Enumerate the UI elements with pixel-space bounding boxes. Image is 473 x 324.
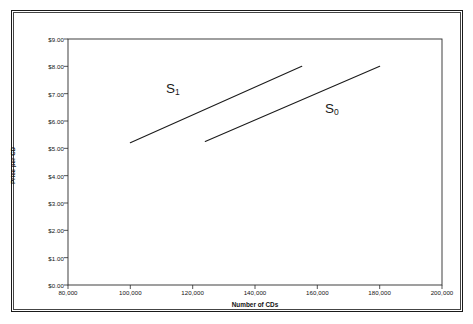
x-tick-label: 160,000: [306, 289, 329, 296]
y-tick-label: $4.00: [48, 172, 64, 179]
y-tick-label: $1.00: [48, 254, 64, 261]
y-tick-label: $5.00: [48, 145, 64, 152]
plot-box: [68, 39, 442, 285]
y-axis-title: Price per CD: [9, 131, 16, 201]
y-axis-ticks: [64, 39, 68, 285]
y-tick-label: $2.00: [48, 227, 64, 234]
curve-label-s1-sub: 1: [175, 87, 180, 97]
curve-label-s0-main: S: [325, 101, 334, 116]
y-tick-label: $7.00: [48, 90, 64, 97]
y-tick-label: $3.00: [48, 200, 64, 207]
y-tick-label: $0.00: [48, 282, 64, 289]
x-axis-title: Number of CDs: [68, 301, 442, 308]
chart-plot-area: [0, 0, 473, 324]
x-tick-label: 120,000: [181, 289, 204, 296]
x-tick-label: 180,000: [368, 289, 391, 296]
y-tick-label: $6.00: [48, 118, 64, 125]
curve-label-s0: S0: [325, 101, 339, 116]
x-tick-label: 140,000: [244, 289, 267, 296]
curve-label-s1: S1: [166, 81, 180, 96]
curve-label-s0-sub: 0: [334, 107, 339, 117]
x-tick-label: 100,000: [119, 289, 142, 296]
x-tick-label: 80,000: [58, 289, 77, 296]
y-tick-label: $9.00: [48, 36, 64, 43]
curve-label-s1-main: S: [166, 81, 175, 96]
y-axis-tick-label-group: $9.00 $8.00 $7.00 $6.00 $5.00 $4.00 $3.0…: [34, 0, 64, 324]
x-tick-label: 200,000: [431, 289, 454, 296]
y-tick-label: $8.00: [48, 63, 64, 70]
